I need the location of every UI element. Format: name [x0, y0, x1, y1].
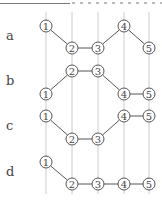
- node-3: 3: [92, 65, 104, 77]
- edge-3-4: [103, 30, 120, 44]
- diagram: 12345123451234512345 abcd: [0, 0, 162, 203]
- node-5: 5: [143, 42, 155, 54]
- svg-text:5: 5: [146, 111, 152, 122]
- svg-text:4: 4: [121, 89, 127, 100]
- node-4: 4: [118, 20, 130, 32]
- edge-3-4: [102, 75, 119, 90]
- node-5: 5: [143, 110, 155, 122]
- edge-1-2: [50, 75, 67, 90]
- svg-text:4: 4: [121, 21, 127, 32]
- svg-text:5: 5: [146, 43, 152, 54]
- svg-text:4: 4: [121, 179, 127, 190]
- svg-text:2: 2: [69, 66, 75, 77]
- svg-text:3: 3: [95, 134, 101, 145]
- node-2: 2: [66, 42, 78, 54]
- node-2: 2: [66, 65, 78, 77]
- svg-text:1: 1: [43, 89, 49, 100]
- node-4: 4: [118, 88, 130, 100]
- svg-text:3: 3: [95, 43, 101, 54]
- sequence-diagram-svg: 12345123451234512345: [0, 0, 162, 203]
- svg-text:2: 2: [69, 179, 75, 190]
- svg-text:1: 1: [43, 111, 49, 122]
- node-1: 1: [40, 20, 52, 32]
- svg-text:2: 2: [69, 43, 75, 54]
- svg-text:1: 1: [43, 21, 49, 32]
- row-label-c: c: [6, 119, 13, 132]
- node-5: 5: [143, 178, 155, 190]
- node-4: 4: [118, 178, 130, 190]
- edge-3-4: [102, 120, 119, 135]
- row-label-d: d: [6, 165, 14, 178]
- edge-1-2: [50, 120, 67, 135]
- row-label-a: a: [6, 29, 14, 42]
- node-5: 5: [143, 88, 155, 100]
- node-3: 3: [92, 42, 104, 54]
- node-1: 1: [40, 88, 52, 100]
- node-2: 2: [66, 133, 78, 145]
- svg-text:1: 1: [43, 157, 49, 168]
- row-label-b: b: [6, 74, 14, 87]
- svg-text:4: 4: [121, 111, 127, 122]
- edge-1-2: [51, 30, 68, 44]
- svg-text:2: 2: [69, 134, 75, 145]
- svg-text:3: 3: [95, 179, 101, 190]
- node-2: 2: [66, 178, 78, 190]
- node-1: 1: [40, 110, 52, 122]
- node-4: 4: [118, 110, 130, 122]
- svg-text:5: 5: [146, 89, 152, 100]
- svg-text:3: 3: [95, 66, 101, 77]
- node-3: 3: [92, 178, 104, 190]
- node-3: 3: [92, 133, 104, 145]
- edge-1-2: [51, 166, 68, 180]
- node-1: 1: [40, 156, 52, 168]
- svg-text:5: 5: [146, 179, 152, 190]
- edge-4-5: [129, 30, 145, 44]
